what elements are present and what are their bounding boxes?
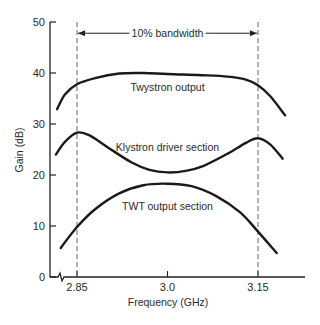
curves — [56, 73, 285, 253]
x-tick-label: 3.0 — [160, 281, 175, 293]
curve-labels: Twystron outputKlystron driver sectionTW… — [116, 81, 219, 212]
twt-output-section-curve — [61, 184, 277, 253]
y-tick-label: 50 — [33, 16, 45, 28]
y-tick-label: 30 — [33, 118, 45, 130]
y-tick-label: 40 — [33, 67, 45, 79]
bandwidth-annotation: 10% bandwidth — [78, 27, 257, 39]
bandwidth-label: 10% bandwidth — [132, 27, 204, 39]
y-tick-label: 10 — [33, 220, 45, 232]
y-axis-label: Gain (dB) — [13, 128, 25, 173]
x-axis-label: Frequency (GHz) — [128, 296, 209, 308]
y-tick-label: 20 — [33, 169, 45, 181]
tick-marks: 010203040502.853.03.15 — [33, 16, 269, 293]
twt-output-section-label: TWT output section — [122, 200, 213, 212]
arrowhead-left-icon — [78, 30, 85, 36]
gain-vs-frequency-chart: 010203040502.853.03.15 Twystron outputKl… — [0, 0, 320, 325]
arrowhead-right-icon — [250, 30, 257, 36]
klystron-driver-section-label: Klystron driver section — [116, 141, 219, 153]
x-tick-label: 2.85 — [66, 281, 87, 293]
x-axis — [50, 273, 305, 281]
y-tick-label: 0 — [39, 271, 45, 283]
twystron-output-label: Twystron output — [130, 81, 204, 93]
twystron-output-curve — [57, 73, 285, 115]
x-tick-label: 3.15 — [247, 281, 268, 293]
